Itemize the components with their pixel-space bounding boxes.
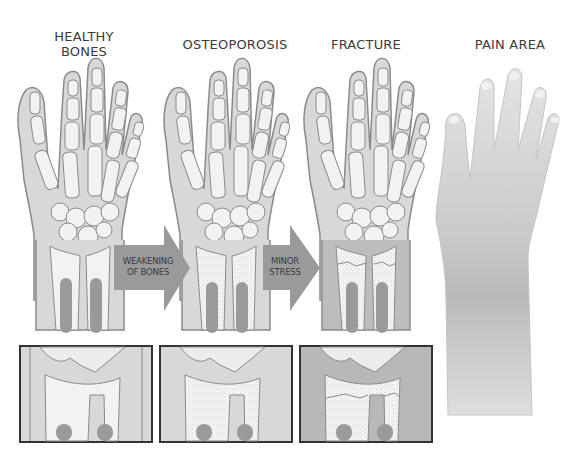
- fracture-detail-box: [300, 346, 432, 442]
- arrow-weakening-of-bones: WEAKENING OF BONES: [114, 225, 190, 311]
- healthy-hand-illustration: [18, 58, 145, 333]
- pain-area-arm: [436, 69, 559, 415]
- arrow-weakening-line2: OF BONES: [127, 267, 169, 277]
- arrow-minor-stress: MINOR STRESS: [263, 225, 320, 311]
- arrow-weakening-line1: WEAKENING: [123, 256, 174, 266]
- diagram-canvas: WEAKENING OF BONES MINOR STRESS: [0, 0, 574, 459]
- healthy-detail-box: [20, 346, 152, 442]
- fracture-hand-illustration: [304, 58, 431, 333]
- arrow-minor-line2: STRESS: [269, 267, 300, 277]
- osteoporosis-hand-illustration: [164, 58, 291, 333]
- arrow-minor-line1: MINOR: [271, 256, 299, 266]
- osteoporosis-detail-box: [160, 346, 292, 442]
